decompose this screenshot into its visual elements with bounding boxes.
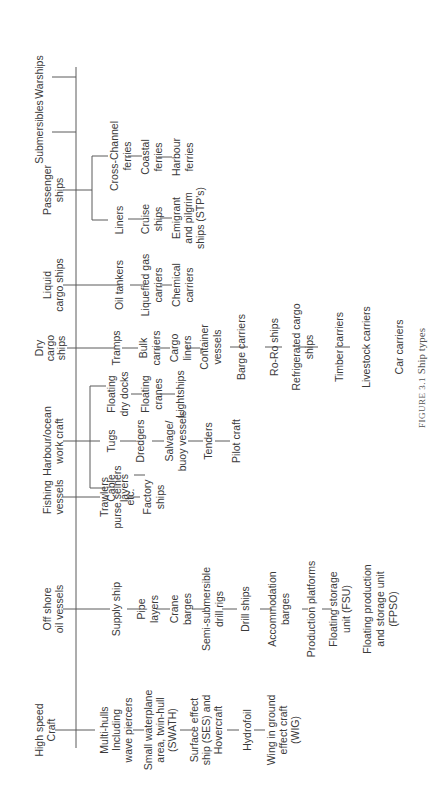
label-hs3: Hovercraft [212,706,224,755]
label-l3: Chemical [170,263,182,307]
label-c-offshore: Off shore [41,587,53,630]
label-h-cranes: cranes [152,378,164,410]
label-hs2: (SWATH) [166,708,178,752]
label-p-harbour: Harbour [170,138,182,176]
label-os9: and storage unit [374,571,386,646]
label-c-passenger: Passenger [41,164,53,215]
label-f1: purse seiners [111,465,123,528]
label-c-harbour: work craft [53,418,65,465]
label-c-dry: ships [55,336,67,361]
label-hs3: ship (SES) and [200,695,212,766]
label-os1: Supply ship [110,582,122,636]
label-hs5: Wing in ground [265,695,277,766]
label-l2: carriers [152,267,164,302]
label-p-harbour: ferries [183,142,195,171]
label-h-tugs: Tugs [105,430,117,453]
label-os8: Floating storage [327,571,339,646]
label-d7: Refrigerated cargo [290,303,302,390]
label-c-highspeed: High speed [33,703,45,756]
label-d4: vessels [211,329,223,364]
label-hs2: area, twin-hull [154,697,166,762]
label-c-liquid: cargo ships [53,258,65,312]
label-p-emigrant: Emigrant [170,197,182,239]
label-h-dry: dry docks [118,372,130,417]
label-d1: Tramps [110,330,122,365]
label-p-cross: Cross-Channel [108,121,120,191]
figure-caption: FIGURE 3.1 Ship types [415,328,427,428]
label-os2: Pipe [135,598,147,619]
label-d9: Livestock carriers [360,306,372,388]
label-p-liners: Liners [113,206,125,235]
label-l2: Liquefied gas [139,254,151,316]
label-d7: ships [303,335,315,360]
label-p-coastal: ferries [152,142,164,171]
label-p-coastal: Coastal [139,139,151,175]
label-d3: Cargo [168,334,180,363]
label-os5: Drill ships [239,586,251,632]
label-os6: Accommodation [266,571,278,646]
label-h-salvage: buoy vessels [176,411,188,472]
label-os9: Floating production [361,564,373,653]
label-h-dredgers: Dredgers [134,419,146,462]
label-os2: layers [148,595,160,623]
label-hs4: Hydrofoil [241,709,253,750]
label-l1: Oil tankers [113,260,125,310]
label-f2: ships [154,485,166,510]
label-d4: Container [198,324,210,370]
label-hs1: Including [110,709,122,751]
label-c-harbour: Harbour/ocean [41,406,53,476]
label-d6: Ro-Ro ships [268,318,280,376]
label-hs3: Surface effect [188,698,200,763]
label-p-emigrant: ships (STP's) [194,187,206,249]
label-h-dry: Floating [105,375,117,413]
label-hs1: Multi-hulls [98,706,110,753]
label-d8: Timber carriers [333,312,345,382]
ship-types-diagram: WarshipsSubmersiblesPassengershipsLiquid… [0,0,440,788]
label-p-cruise: Cruise [139,204,151,235]
label-p-cross: ferries [121,141,133,170]
label-c-liquid: Liquid [41,271,53,299]
label-h-light: Lightships [174,370,186,417]
label-c-passenger: ships [53,178,65,203]
label-f1: etc. [124,489,136,506]
label-f1: Trawlers [98,477,110,517]
label-os4: Semi-submersible [200,567,212,651]
label-hs5: (WIG) [289,716,301,744]
label-d5: Barge carriers [235,314,247,380]
label-c-sub: Submersibles [33,100,45,164]
label-c-highspeed: Craft [45,719,57,742]
label-hs2: Small waterplane [142,690,154,771]
label-hs5: effect craft [277,706,289,755]
label-hs1: wave piercers [122,698,134,764]
label-c-offshore: oil vessels [53,585,65,633]
label-h-tenders: Tenders [202,422,214,459]
label-os6: barges [279,593,291,625]
label-p-cruise: ships [152,207,164,232]
label-d3: liners [181,335,193,360]
label-c-fishing: vessels [53,479,65,514]
label-d10: Car carriers [393,320,405,375]
label-os4: drill rigs [213,591,225,627]
label-h-cranes: Floating [139,375,151,413]
label-c-fishing: Fishing [41,480,53,514]
label-os9: (FPSO) [387,591,399,627]
label-h-pilot: Pilot craft [230,419,242,463]
label-l3: carriers [183,267,195,302]
label-d2: Bulk [137,337,149,358]
label-os7: Production platforms [305,561,317,657]
label-f2: Factory [141,479,153,515]
label-h-salvage: Salvage/ [163,420,175,461]
label-os8: unit (FSU) [340,585,352,633]
label-d2: carriers [150,330,162,365]
label-p-emigrant: and pilgrim [182,192,194,244]
label-c-war: Warships [33,55,45,98]
label-os3: barges [181,593,193,625]
label-os3: Crane [168,595,180,624]
